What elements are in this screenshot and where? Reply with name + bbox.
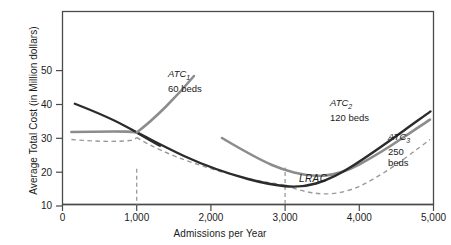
atc3-detail-line1: 250 [388,146,404,157]
atc3-label: ATC3 250 beds [388,131,410,168]
x-axis-title: Admissions per Year [150,228,290,239]
x-axis-ticks [63,205,434,212]
atc1-label: ATC1 60 beds [168,68,202,94]
atc3-symbol: ATC3 [388,131,410,142]
x-tick-label-4000: 4,000 [336,212,382,223]
drop-lines [137,168,285,205]
atc1-symbol: ATC1 [168,68,190,79]
lrac-label: LRAC [299,173,327,184]
atc1-detail: 60 beds [168,83,202,94]
atc2-curve-left-flat [71,132,136,133]
atc2-detail: 120 beds [330,112,369,123]
x-tick-label-2000: 2,000 [188,212,234,223]
lrac-curve-left [71,137,136,141]
x-tick-label-1000: 1,000 [114,212,160,223]
y-axis-ticks [56,71,62,206]
atc2-label: ATC2 120 beds [330,97,369,123]
y-axis-title: Average Total Cost (in Million dollars) [28,16,39,206]
x-tick-label-0: 0 [40,212,86,223]
x-tick-label-5000: 5,000 [411,212,451,223]
x-tick-label-3000: 3,000 [262,212,308,223]
atc2-symbol: ATC2 [330,97,352,108]
atc3-detail-line2: beds [388,157,409,168]
